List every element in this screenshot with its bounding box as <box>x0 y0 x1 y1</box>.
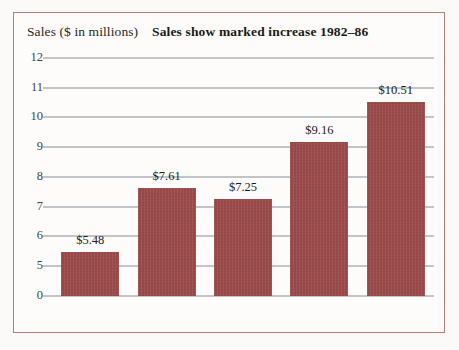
bar[interactable] <box>214 199 272 296</box>
bar[interactable] <box>138 188 196 296</box>
y-tick-mark <box>43 206 52 208</box>
y-tick-label: 0 <box>37 288 43 303</box>
y-tick-mark <box>43 87 52 89</box>
y-tick-label: 11 <box>31 79 43 94</box>
bar[interactable] <box>290 142 348 296</box>
y-tick-mark <box>43 235 52 237</box>
y-tick-label: 9 <box>37 139 43 154</box>
y-tick-label: 12 <box>31 50 44 65</box>
bar-value-label: $9.16 <box>305 123 333 138</box>
gridline: 11 <box>52 87 434 89</box>
y-tick-label: 5 <box>37 258 43 273</box>
chart-title: Sales show marked increase 1982–86 <box>152 24 368 40</box>
gridline: 12 <box>52 57 434 59</box>
y-tick-label: 7 <box>37 198 43 213</box>
bar[interactable] <box>61 252 119 296</box>
y-tick-mark <box>43 265 52 267</box>
bar-value-label: $10.51 <box>379 83 413 98</box>
bar[interactable] <box>367 102 425 296</box>
bar-value-label: $7.25 <box>229 180 257 195</box>
bar-value-label: $7.61 <box>153 169 181 184</box>
y-tick-label: 10 <box>31 109 44 124</box>
y-tick-mark <box>43 57 52 59</box>
bar-value-label: $5.48 <box>76 233 104 248</box>
y-tick-label: 6 <box>37 228 43 243</box>
y-tick-mark <box>43 146 52 148</box>
y-tick-label: 8 <box>37 168 43 183</box>
y-tick-mark <box>43 176 52 178</box>
plot-area: 121110987650 $5.48$7.61$7.25$9.16$10.51 … <box>52 58 434 296</box>
chart-screenshot: Sales ($ in millions) Sales show marked … <box>0 0 459 350</box>
y-tick-mark <box>43 295 52 297</box>
y-tick-mark <box>43 116 52 118</box>
y-axis-title: Sales ($ in millions) <box>27 24 138 40</box>
